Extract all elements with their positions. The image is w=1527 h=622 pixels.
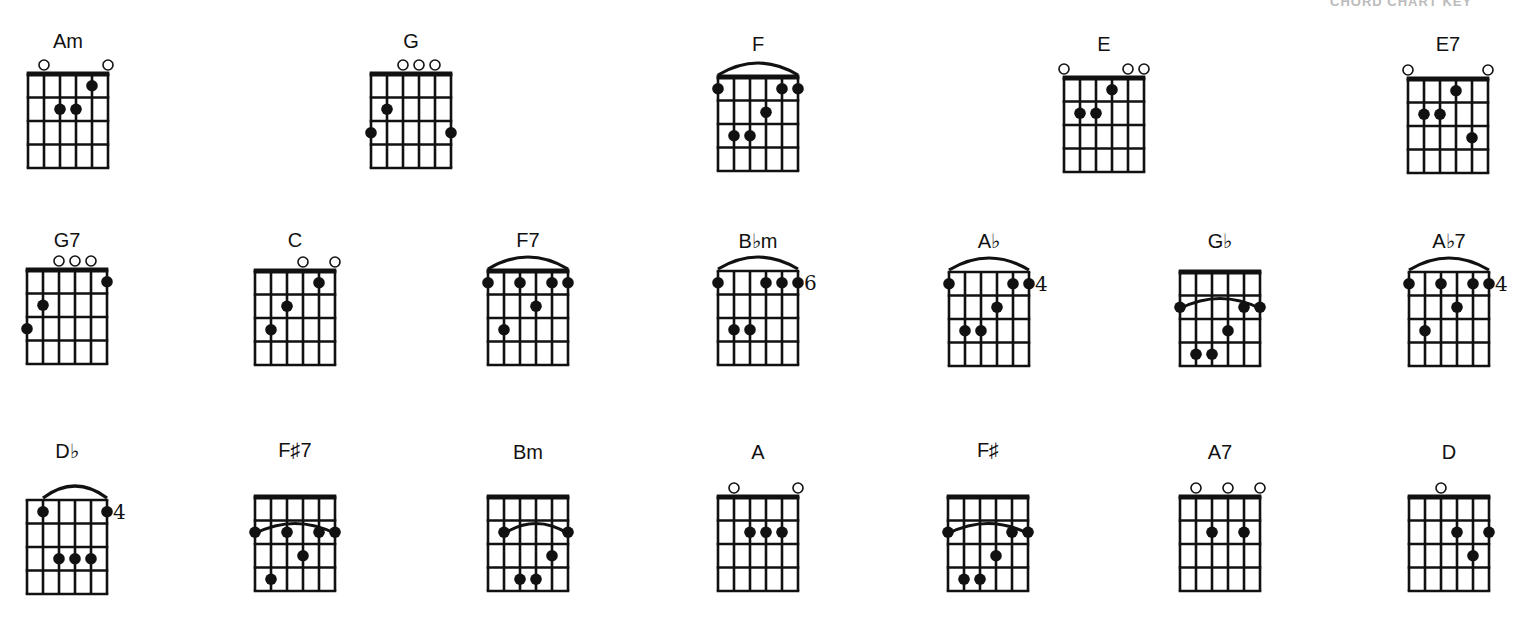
- finger-dot-icon: [712, 83, 724, 95]
- finger-dot-icon: [728, 324, 740, 336]
- chord-name: F♯7: [278, 439, 311, 462]
- nut-bar: [487, 269, 570, 274]
- fretboard-grid: [1168, 256, 1288, 390]
- finger-dot-icon: [329, 526, 341, 538]
- finger-dot-icon: [1418, 108, 1430, 120]
- open-string-icon: [430, 60, 440, 70]
- finger-dot-icon: [1222, 325, 1234, 337]
- finger-dot-icon: [712, 277, 724, 289]
- chord-name: E: [1097, 33, 1110, 56]
- open-string-icon: [1223, 483, 1233, 493]
- chord-name: D: [1442, 441, 1456, 464]
- finger-dot-icon: [546, 277, 558, 289]
- finger-dot-icon: [1238, 526, 1250, 538]
- finger-dot-icon: [530, 300, 542, 312]
- fretboard-grid: [359, 58, 479, 192]
- fretboard-grid: [706, 481, 826, 615]
- chord-name: D♭: [55, 439, 78, 463]
- finger-dot-icon: [776, 277, 788, 289]
- fretboard-grid: [706, 61, 826, 195]
- finger-dot-icon: [54, 103, 66, 115]
- finger-dot-icon: [728, 130, 740, 142]
- finger-dot-icon: [1174, 301, 1186, 313]
- chord-name: G♭: [1208, 229, 1233, 253]
- finger-dot-icon: [281, 526, 293, 538]
- chord-name: G7: [54, 229, 81, 252]
- finger-dot-icon: [1206, 348, 1218, 360]
- finger-dot-icon: [1467, 550, 1479, 562]
- open-string-icon: [86, 256, 96, 266]
- fret-position-number: 6: [804, 271, 817, 295]
- finger-dot-icon: [1007, 278, 1019, 290]
- finger-dot-icon: [942, 526, 954, 538]
- finger-dot-icon: [744, 324, 756, 336]
- chord-name: A♭: [978, 229, 1000, 253]
- finger-dot-icon: [265, 324, 277, 336]
- finger-dot-icon: [1450, 85, 1462, 97]
- open-string-icon: [1123, 64, 1133, 74]
- nut-bar: [1179, 495, 1262, 500]
- nut-bar: [1407, 77, 1490, 82]
- finger-dot-icon: [546, 550, 558, 562]
- nut-bar: [27, 72, 110, 77]
- finger-dot-icon: [1483, 278, 1495, 290]
- barre-arc: [718, 63, 798, 75]
- open-string-icon: [414, 60, 424, 70]
- barre-arc: [488, 257, 568, 269]
- finger-dot-icon: [1206, 526, 1218, 538]
- finger-dot-icon: [37, 506, 49, 518]
- finger-dot-icon: [249, 526, 261, 538]
- finger-dot-icon: [1254, 301, 1266, 313]
- finger-dot-icon: [1435, 278, 1447, 290]
- finger-dot-icon: [792, 277, 804, 289]
- finger-dot-icon: [1074, 107, 1086, 119]
- finger-dot-icon: [744, 130, 756, 142]
- open-string-icon: [298, 257, 308, 267]
- finger-dot-icon: [498, 324, 510, 336]
- nut-bar: [717, 75, 800, 80]
- fretboard-grid: 4: [937, 256, 1057, 390]
- chord-name: Am: [53, 30, 83, 53]
- chord-name: C: [288, 229, 302, 252]
- fret-position-number: 4: [1495, 272, 1508, 296]
- finger-dot-icon: [53, 553, 65, 565]
- finger-dot-icon: [1190, 348, 1202, 360]
- finger-dot-icon: [1434, 108, 1446, 120]
- finger-dot-icon: [990, 550, 1002, 562]
- finger-dot-icon: [21, 323, 33, 335]
- finger-dot-icon: [760, 526, 772, 538]
- chord-name: G: [403, 30, 419, 53]
- finger-dot-icon: [1451, 526, 1463, 538]
- open-string-icon: [1191, 483, 1201, 493]
- open-string-icon: [39, 60, 49, 70]
- finger-dot-icon: [991, 301, 1003, 313]
- fretboard-grid: [1052, 62, 1172, 196]
- chord-name: A: [751, 441, 764, 464]
- finger-dot-icon: [1090, 107, 1102, 119]
- nut-bar: [1063, 76, 1146, 81]
- finger-dot-icon: [70, 103, 82, 115]
- finger-dot-icon: [760, 106, 772, 118]
- finger-dot-icon: [1451, 301, 1463, 313]
- chord-name: F7: [516, 229, 539, 252]
- finger-dot-icon: [265, 573, 277, 585]
- finger-dot-icon: [514, 573, 526, 585]
- open-string-icon: [103, 60, 113, 70]
- nut-bar: [1179, 270, 1262, 275]
- finger-dot-icon: [1467, 278, 1479, 290]
- finger-dot-icon: [562, 277, 574, 289]
- fretboard-grid: [476, 481, 596, 615]
- finger-dot-icon: [1022, 526, 1034, 538]
- finger-dot-icon: [445, 127, 457, 139]
- finger-dot-icon: [959, 325, 971, 337]
- open-string-icon: [793, 483, 803, 493]
- finger-dot-icon: [776, 526, 788, 538]
- open-string-icon: [1436, 483, 1446, 493]
- finger-dot-icon: [530, 573, 542, 585]
- barre-arc: [1409, 258, 1489, 270]
- finger-dot-icon: [281, 300, 293, 312]
- barre-arc: [718, 257, 798, 269]
- finger-dot-icon: [313, 277, 325, 289]
- finger-dot-icon: [975, 325, 987, 337]
- open-string-icon: [1139, 64, 1149, 74]
